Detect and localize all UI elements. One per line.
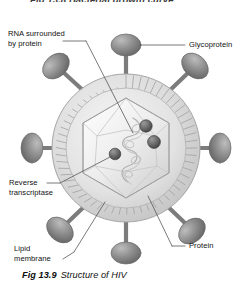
figure-title: Structure of HIV <box>61 270 127 280</box>
label-line-2: by protein <box>8 39 42 48</box>
label-reverse-transcriptase: Reverse transcriptase <box>9 178 53 197</box>
figure-number: Fig 13.9 <box>22 270 57 280</box>
enzyme-sphere <box>148 136 161 149</box>
label-line-1: Reverse <box>9 178 38 187</box>
enzyme-sphere <box>140 120 152 132</box>
label-line-1: Glycoprotein <box>189 40 232 49</box>
enzyme-sphere <box>109 148 121 160</box>
label-rna-surrounded-by-protein: RNA surrounded by protein <box>8 29 65 48</box>
glycoprotein-spike-upper-right <box>166 48 214 94</box>
label-protein: Protein <box>189 241 213 251</box>
label-line-1: Protein <box>189 241 213 250</box>
label-line-2: membrane <box>14 254 51 263</box>
label-line-1: Lipid <box>14 244 30 253</box>
label-line-1: RNA surrounded <box>8 29 65 38</box>
figure-container: Fig 13.8 Bacterial growth curve <box>0 0 251 291</box>
figure-caption: Fig 13.9Structure of HIV <box>22 270 127 280</box>
label-line-2: transcriptase <box>9 188 53 197</box>
glycoprotein-spike-upper-left <box>37 48 87 94</box>
leader-lipid-membrane-stub <box>63 252 74 259</box>
label-glycoprotein: Glycoprotein <box>189 40 232 50</box>
label-lipid-membrane: Lipid membrane <box>14 244 51 263</box>
glycoprotein-spike-lower-left <box>41 203 88 248</box>
